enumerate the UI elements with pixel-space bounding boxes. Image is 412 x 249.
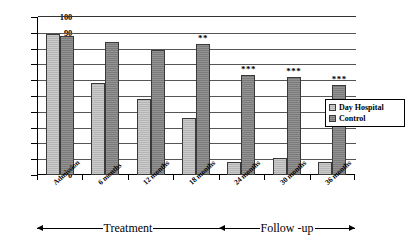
bar-day-hospital (46, 34, 60, 175)
phase-label: Treatment (103, 222, 154, 234)
legend-item-control: Control (329, 113, 401, 124)
bar-group: *** (219, 17, 264, 175)
bar-control (60, 36, 74, 175)
phase-label: Follow -up (260, 222, 315, 234)
bar-group: *** (264, 17, 309, 175)
bar-group: *** (310, 17, 355, 175)
legend-label: Control (339, 115, 366, 123)
legend-swatch-icon (329, 115, 336, 122)
bar-group (82, 17, 127, 175)
arrow-left-icon (37, 228, 103, 229)
bar-day-hospital (182, 118, 196, 175)
significance-marker: *** (332, 75, 347, 84)
bar-day-hospital (91, 83, 105, 175)
arrow-line (153, 228, 219, 229)
bar-group (37, 17, 82, 175)
legend-item-day-hospital: Day Hospital (329, 102, 401, 113)
significance-marker: ** (198, 34, 208, 43)
arrow-right-icon (315, 228, 356, 229)
phase-treatment: Treatment (37, 218, 219, 238)
x-axis-labels: Admission6 months12 months18 months24 mo… (37, 176, 355, 216)
phase-annotations: Treatment Follow -up (0, 218, 412, 242)
significance-marker: *** (241, 65, 256, 74)
bar-control: ** (196, 44, 210, 175)
bar-group: ** (173, 17, 218, 175)
chart-figure: 100 90 80 70 60 50 40 30 20 10 0 ** (0, 0, 412, 249)
bar-day-hospital (137, 99, 151, 175)
bar-control (105, 42, 119, 175)
arrow-left-icon (219, 228, 260, 229)
bar-control (151, 50, 165, 175)
bar-groups: *********** (37, 17, 355, 175)
significance-marker: *** (286, 67, 301, 76)
legend-swatch-icon (329, 104, 336, 111)
bar-group (128, 17, 173, 175)
phase-followup: Follow -up (219, 218, 355, 238)
legend-label: Day Hospital (339, 104, 384, 112)
legend: Day Hospital Control (325, 99, 405, 127)
